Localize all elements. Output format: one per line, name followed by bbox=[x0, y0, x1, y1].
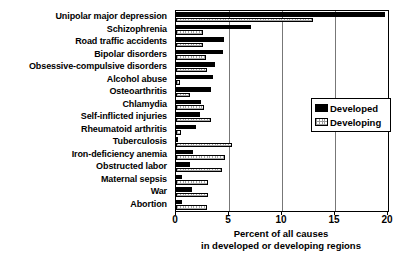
x-tick-label: 5 bbox=[213, 214, 243, 225]
category-label: Bipolar disorders bbox=[94, 48, 167, 61]
bar-developed bbox=[176, 75, 213, 80]
bar-developed bbox=[176, 37, 224, 42]
bar-group bbox=[176, 161, 388, 174]
category-label: Schizophrenia bbox=[107, 23, 167, 36]
category-label: Osteoarthritis bbox=[109, 85, 167, 98]
bar-developed bbox=[176, 100, 201, 105]
bar-developed bbox=[176, 187, 192, 192]
bar-developing bbox=[176, 68, 207, 73]
category-label: Iron-deficiency anemia bbox=[72, 148, 167, 161]
bar-group bbox=[176, 149, 388, 162]
legend-item-developed: Developed bbox=[315, 101, 387, 115]
bar-developing bbox=[176, 43, 203, 48]
bar-developed bbox=[176, 25, 251, 30]
bar-developing bbox=[176, 30, 203, 35]
legend-label-developed: Developed bbox=[330, 103, 378, 114]
bar-developing bbox=[176, 93, 190, 98]
category-label: Maternal sepsis bbox=[101, 173, 167, 186]
legend-swatch-developing-icon bbox=[315, 118, 328, 126]
category-label: Abortion bbox=[130, 198, 167, 211]
category-label: Obsessive-compulsive disorders bbox=[29, 60, 167, 73]
bar-developed bbox=[176, 175, 182, 180]
bar-chart-figure: Unipolar major depressionSchizophreniaRo… bbox=[0, 0, 403, 255]
bar-developing bbox=[176, 80, 180, 85]
legend-label-developing: Developing bbox=[330, 117, 381, 128]
x-axis-caption: Percent of all causes in developed or de… bbox=[175, 228, 387, 252]
bar-developed bbox=[176, 50, 223, 55]
category-label: Obstructed labor bbox=[96, 160, 167, 173]
bar-developing bbox=[176, 118, 211, 123]
bar-group bbox=[176, 186, 388, 199]
x-tick-label: 10 bbox=[266, 214, 296, 225]
bar-group bbox=[176, 11, 388, 24]
x-tick-label: 15 bbox=[319, 214, 349, 225]
caption-line-1: Percent of all causes bbox=[175, 228, 387, 240]
category-label: Alcohol abuse bbox=[107, 73, 167, 86]
bar-developing bbox=[176, 143, 232, 148]
bar-group bbox=[176, 86, 388, 99]
category-label: Tuberculosis bbox=[113, 135, 167, 148]
bar-developed bbox=[176, 150, 193, 155]
bar-developing bbox=[176, 55, 206, 60]
category-label: Road traffic accidents bbox=[75, 35, 167, 48]
category-label: Unipolar major depression bbox=[55, 10, 167, 23]
bar-developing bbox=[176, 193, 208, 198]
bar-group bbox=[176, 136, 388, 149]
bar-group bbox=[176, 174, 388, 187]
bar-developed bbox=[176, 137, 178, 142]
chart-legend: Developed Developing bbox=[311, 98, 391, 132]
bar-developing bbox=[176, 18, 313, 23]
bar-developed bbox=[176, 162, 190, 167]
x-tick-label: 20 bbox=[372, 214, 402, 225]
bar-developed bbox=[176, 125, 196, 130]
bar-developed bbox=[176, 62, 215, 67]
category-label: Rheumatoid arthritis bbox=[81, 123, 167, 136]
legend-item-developing: Developing bbox=[315, 115, 387, 129]
bar-developing bbox=[176, 205, 207, 210]
bar-group bbox=[176, 36, 388, 49]
bar-developing bbox=[176, 168, 222, 173]
caption-line-2: in developed or developing regions bbox=[175, 240, 387, 252]
bar-developing bbox=[176, 105, 204, 110]
bar-group bbox=[176, 49, 388, 62]
category-label: Self-inflicted injuries bbox=[81, 110, 167, 123]
category-label: Chlamydia bbox=[122, 98, 167, 111]
bar-group bbox=[176, 61, 388, 74]
category-axis-labels: Unipolar major depressionSchizophreniaRo… bbox=[0, 10, 171, 210]
bar-developing bbox=[176, 130, 181, 135]
category-label: War bbox=[151, 185, 167, 198]
x-tick-label: 0 bbox=[160, 214, 190, 225]
bar-developing bbox=[176, 180, 208, 185]
bar-group bbox=[176, 24, 388, 37]
bar-developed bbox=[176, 12, 385, 17]
bar-developed bbox=[176, 112, 200, 117]
bar-developing bbox=[176, 155, 225, 160]
bar-group bbox=[176, 74, 388, 87]
bar-developed bbox=[176, 87, 211, 92]
legend-swatch-developed-icon bbox=[315, 104, 328, 112]
bar-group bbox=[176, 199, 388, 212]
bar-developed bbox=[176, 200, 182, 205]
